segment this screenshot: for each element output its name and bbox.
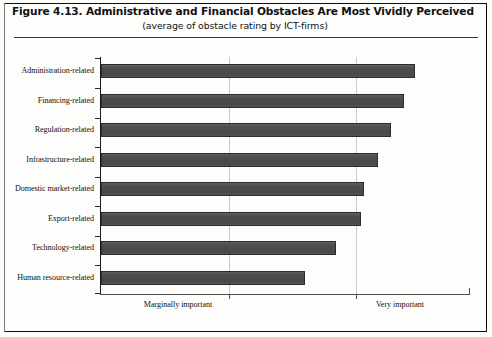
axis-note-very-important: Very important (356, 300, 444, 309)
bar-administration (101, 64, 415, 78)
y-axis-tick-4 (95, 177, 100, 178)
category-label-administration: Administration-related (21, 66, 94, 75)
category-label-technology: Technology-related (32, 243, 94, 252)
gridline-very-important (356, 57, 357, 294)
bar-human-resource (101, 271, 305, 285)
category-label-human-resource: Human resource-related (17, 273, 94, 282)
y-axis (100, 57, 101, 295)
y-axis-tick-8 (95, 293, 100, 294)
bar-regulation (101, 123, 391, 137)
y-axis-tick-0 (95, 58, 100, 59)
y-axis-tick-5 (95, 206, 100, 207)
category-label-regulation: Regulation-related (35, 125, 94, 134)
x-axis-tick-2 (356, 294, 357, 299)
x-axis (100, 294, 470, 295)
gridline-marginally-important (229, 57, 230, 294)
y-axis-tick-6 (95, 236, 100, 237)
y-axis-tick-1 (95, 88, 100, 89)
bar-export (101, 212, 361, 226)
chart-plot-area: Administration-related Financing-related… (0, 0, 492, 337)
category-label-financing: Financing-related (38, 96, 94, 105)
bar-financing (101, 94, 404, 108)
category-label-infrastructure: Infrastructure-related (26, 155, 94, 164)
category-label-domestic-market: Domestic market-related (15, 184, 94, 193)
axis-note-marginally-important: Marginally important (128, 300, 228, 309)
category-label-export: Export-related (48, 214, 94, 223)
y-axis-tick-3 (95, 147, 100, 148)
y-axis-tick-2 (95, 118, 100, 119)
figure-page: Figure 4.13. Administrative and Financia… (0, 0, 492, 337)
bar-technology (101, 241, 336, 255)
x-axis-right-cap (469, 288, 470, 295)
x-axis-tick-1 (229, 294, 230, 299)
bar-domestic-market (101, 182, 364, 196)
bar-infrastructure (101, 153, 378, 167)
y-axis-tick-7 (95, 265, 100, 266)
